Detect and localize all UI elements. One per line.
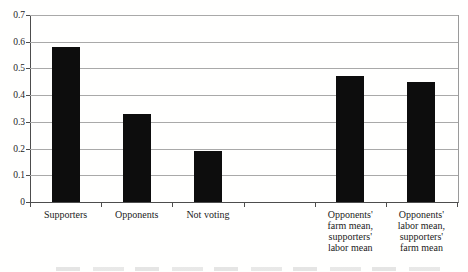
y-axis-tick-0.6 bbox=[26, 42, 30, 43]
bar-opponents bbox=[123, 114, 151, 202]
y-axis-tick-0.2 bbox=[26, 149, 30, 150]
x-axis-label-2: Not voting bbox=[166, 209, 250, 220]
y-axis-tick-0.5 bbox=[26, 68, 30, 69]
x-axis-label-5: Opponents' labor mean, supporters' farm … bbox=[379, 209, 463, 253]
gridline-0.3 bbox=[30, 122, 458, 123]
bar-supporters bbox=[52, 47, 80, 202]
x-axis-tick-5 bbox=[386, 203, 387, 207]
y-axis-tick-0.1 bbox=[26, 175, 30, 176]
y-axis-label-0: 0 bbox=[0, 197, 25, 208]
bar-opponents-labor-mean-supporters-farm-mean bbox=[407, 82, 435, 202]
bar-opponents-farm-mean-supporters-labor-mean bbox=[336, 76, 364, 202]
y-axis-label-0.1: 0.1 bbox=[0, 170, 25, 181]
gridline-0.5 bbox=[30, 68, 458, 69]
y-axis-label-0.2: 0.2 bbox=[0, 144, 25, 155]
x-axis-tick-4 bbox=[315, 203, 316, 207]
y-axis-label-0.7: 0.7 bbox=[0, 10, 25, 21]
gridline-0.6 bbox=[30, 42, 458, 43]
y-axis-label-0.4: 0.4 bbox=[0, 90, 25, 101]
y-axis-label-0.6: 0.6 bbox=[0, 37, 25, 48]
gridline-0.7 bbox=[30, 15, 458, 16]
x-axis-tick-1 bbox=[101, 203, 102, 207]
bar-not-voting bbox=[194, 151, 222, 202]
x-axis-tick-2 bbox=[172, 203, 173, 207]
gridline-0.4 bbox=[30, 95, 458, 96]
y-axis-label-0.3: 0.3 bbox=[0, 117, 25, 128]
y-axis-tick-0.3 bbox=[26, 122, 30, 123]
x-axis-tick-3 bbox=[244, 203, 245, 207]
x-axis-tick-6 bbox=[457, 203, 458, 207]
y-axis-label-0.5: 0.5 bbox=[0, 63, 25, 74]
gridline-0.1 bbox=[30, 175, 458, 176]
clipped-caption-remnant bbox=[56, 267, 444, 271]
gridline-0.2 bbox=[30, 149, 458, 150]
y-axis-tick-0.7 bbox=[26, 15, 30, 16]
x-axis-tick-0 bbox=[30, 203, 31, 207]
bar-chart-figure: 0.70.60.50.40.30.20.10SupportersOpponent… bbox=[0, 0, 468, 272]
y-axis-tick-0.4 bbox=[26, 95, 30, 96]
